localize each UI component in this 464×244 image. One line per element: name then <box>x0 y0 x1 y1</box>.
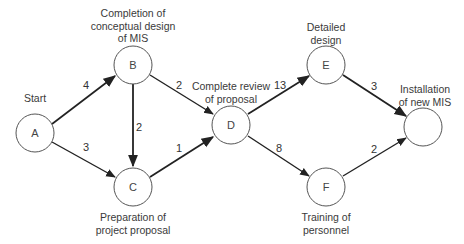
label-detailed-design: Detailed design <box>307 21 346 46</box>
label-start-text: Start <box>24 92 46 104</box>
label-b-line1: Completion of <box>91 7 176 20</box>
weight-b-d: 2 <box>176 79 182 91</box>
label-g-line2: of new MIS <box>399 96 452 109</box>
label-installation: Installation of new MIS <box>399 83 452 108</box>
weight-a-c: 3 <box>83 141 89 153</box>
label-complete-review: Complete review of proposal <box>192 80 270 105</box>
label-d-line1: Complete review <box>192 80 270 93</box>
label-d-line2: of proposal <box>192 93 270 106</box>
label-b-line2: conceptual design <box>91 20 176 33</box>
network-diagram: A B C D E F 4 3 2 2 1 13 8 3 2 <box>0 0 464 244</box>
label-b-line3: of MIS <box>91 32 176 45</box>
node-e-letter: E <box>322 59 329 71</box>
label-start: Start <box>24 92 46 105</box>
label-preparation-proposal: Preparation of project proposal <box>96 211 171 236</box>
label-completion-conceptual-design: Completion of conceptual design of MIS <box>91 7 176 45</box>
node-b-letter: B <box>129 59 136 71</box>
label-f-line2: personnel <box>301 224 350 237</box>
weight-a-b: 4 <box>83 79 89 91</box>
node-a-letter: A <box>31 127 39 139</box>
weight-e-g: 3 <box>371 80 377 92</box>
node-c-letter: C <box>129 181 137 193</box>
label-c-line2: project proposal <box>96 224 171 237</box>
weight-d-f: 8 <box>276 142 282 154</box>
label-e-line1: Detailed <box>307 21 346 34</box>
node-f-letter: F <box>323 181 330 193</box>
label-training-personnel: Training of personnel <box>301 211 350 236</box>
node-d-letter: D <box>227 119 235 131</box>
node-g <box>404 108 442 146</box>
weight-c-d: 1 <box>176 142 182 154</box>
weight-d-e: 13 <box>274 79 286 91</box>
label-e-line2: design <box>307 34 346 47</box>
label-g-line1: Installation <box>399 83 452 96</box>
weight-f-g: 2 <box>371 143 377 155</box>
weight-b-c: 2 <box>136 121 142 133</box>
label-f-line1: Training of <box>301 211 350 224</box>
label-c-line1: Preparation of <box>96 211 171 224</box>
